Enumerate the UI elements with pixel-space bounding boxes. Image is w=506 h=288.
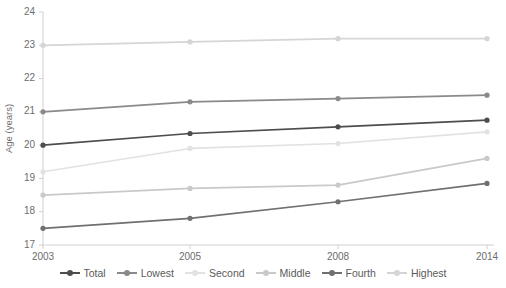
legend-swatch-icon bbox=[387, 269, 407, 278]
y-axis-title: Age (years) bbox=[3, 104, 14, 153]
data-point bbox=[484, 156, 489, 161]
data-point bbox=[484, 93, 489, 98]
data-point bbox=[335, 141, 340, 146]
legend-swatch-icon bbox=[322, 269, 342, 278]
data-point bbox=[40, 143, 45, 148]
legend-item-label: Middle bbox=[280, 268, 311, 279]
legend-item-highest[interactable]: Highest bbox=[387, 268, 447, 279]
legend-item-middle[interactable]: Middle bbox=[256, 268, 311, 279]
series-line bbox=[43, 132, 487, 172]
data-point bbox=[335, 199, 340, 204]
line-chart: 17181920212223242003200520082014Age (yea… bbox=[0, 0, 506, 288]
series-lowest bbox=[40, 93, 489, 115]
data-point bbox=[40, 192, 45, 197]
data-point bbox=[187, 131, 192, 136]
data-point bbox=[335, 124, 340, 129]
y-tick-label: 22 bbox=[24, 72, 36, 83]
legend-item-lowest[interactable]: Lowest bbox=[117, 268, 174, 279]
data-point bbox=[40, 109, 45, 114]
y-tick-label: 21 bbox=[24, 105, 36, 116]
data-point bbox=[484, 181, 489, 186]
x-tick-label: 2005 bbox=[179, 251, 202, 262]
series-fourth bbox=[40, 181, 489, 231]
data-point bbox=[484, 118, 489, 123]
y-tick-label: 17 bbox=[24, 239, 36, 250]
legend-swatch-icon bbox=[185, 269, 205, 278]
data-point bbox=[187, 39, 192, 44]
series-second bbox=[40, 129, 489, 174]
data-point bbox=[335, 96, 340, 101]
data-point bbox=[187, 216, 192, 221]
data-point bbox=[187, 146, 192, 151]
series-highest bbox=[40, 36, 489, 48]
y-tick-label: 23 bbox=[24, 39, 36, 50]
x-tick-label: 2003 bbox=[32, 251, 55, 262]
legend-marker-icon bbox=[263, 270, 269, 276]
legend-item-label: Second bbox=[209, 268, 245, 279]
legend-swatch-icon bbox=[60, 269, 80, 278]
data-point bbox=[40, 226, 45, 231]
legend-item-second[interactable]: Second bbox=[185, 268, 245, 279]
series-line bbox=[43, 95, 487, 112]
x-tick-label: 2014 bbox=[476, 251, 499, 262]
legend-swatch-icon bbox=[117, 269, 137, 278]
data-point bbox=[40, 43, 45, 48]
y-tick-label: 24 bbox=[24, 6, 36, 17]
data-point bbox=[187, 99, 192, 104]
series-line bbox=[43, 183, 487, 228]
legend-marker-icon bbox=[394, 270, 400, 276]
series-total bbox=[40, 118, 489, 148]
legend-marker-icon bbox=[124, 270, 130, 276]
legend-item-label: Total bbox=[84, 268, 106, 279]
y-tick-label: 20 bbox=[24, 139, 36, 150]
series-line bbox=[43, 39, 487, 46]
series-line bbox=[43, 158, 487, 195]
legend-marker-icon bbox=[329, 270, 335, 276]
legend-marker-icon bbox=[192, 270, 198, 276]
data-point bbox=[40, 169, 45, 174]
legend-item-fourth[interactable]: Fourth bbox=[322, 268, 376, 279]
data-point bbox=[484, 36, 489, 41]
y-tick-label: 19 bbox=[24, 172, 36, 183]
series-line bbox=[43, 120, 487, 145]
data-point bbox=[335, 36, 340, 41]
legend-item-label: Highest bbox=[411, 268, 447, 279]
legend-marker-icon bbox=[67, 270, 73, 276]
data-point bbox=[335, 182, 340, 187]
x-tick-label: 2008 bbox=[327, 251, 350, 262]
chart-plot-area: 17181920212223242003200520082014Age (yea… bbox=[0, 0, 506, 288]
legend-item-label: Fourth bbox=[346, 268, 376, 279]
chart-legend: TotalLowestSecondMiddleFourthHighest bbox=[0, 264, 506, 282]
legend-item-label: Lowest bbox=[141, 268, 174, 279]
data-point bbox=[187, 186, 192, 191]
legend-swatch-icon bbox=[256, 269, 276, 278]
y-tick-label: 18 bbox=[24, 205, 36, 216]
data-point bbox=[484, 129, 489, 134]
legend-item-total[interactable]: Total bbox=[60, 268, 106, 279]
